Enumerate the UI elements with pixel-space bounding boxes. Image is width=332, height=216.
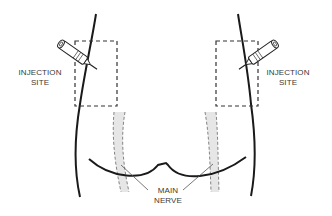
label-line-2: SITE: [14, 78, 66, 88]
label-line-1: INJECTION: [14, 68, 66, 78]
injection-site-label-right: INJECTION SITE: [262, 68, 314, 87]
label-line-1: INJECTION: [262, 68, 314, 78]
main-nerve-left: [113, 112, 129, 192]
label-line-2: SITE: [262, 78, 314, 88]
gluteal-crease: [89, 157, 246, 176]
label-line-1: MAIN: [144, 186, 192, 196]
main-nerve-right: [205, 112, 219, 192]
main-nerve-label: MAIN NERVE: [144, 186, 192, 205]
injection-site-label-left: INJECTION SITE: [14, 68, 66, 87]
injection-site-box-right: [216, 41, 258, 106]
label-line-2: NERVE: [144, 196, 192, 206]
buttock-injection-diagram: [0, 0, 332, 216]
